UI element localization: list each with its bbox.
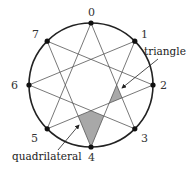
- star-edge-0-3: [91, 23, 135, 129]
- shaded-quadrilateral: [78, 111, 104, 147]
- vertex-label-4: 4: [88, 151, 95, 164]
- vertex-dot-0: [88, 20, 93, 25]
- quadrilateral-annotation: quadrilateral: [12, 150, 82, 162]
- vertex-label-5: 5: [31, 132, 38, 145]
- star-edge-7-2: [47, 41, 153, 85]
- vertex-dot-1: [132, 39, 137, 44]
- vertex-dot-5: [45, 126, 50, 131]
- star-edge-4-7: [47, 41, 91, 147]
- star-edge-1-4: [91, 41, 135, 147]
- vertex-dot-6: [26, 82, 31, 87]
- vertex-dot-2: [150, 82, 155, 87]
- quadrilateral-arrow: [58, 125, 79, 150]
- vertex-label-1: 1: [141, 28, 148, 41]
- triangle-annotation: triangle: [144, 45, 186, 57]
- vertex-label-3: 3: [141, 132, 148, 145]
- vertex-dot-3: [132, 126, 137, 131]
- vertex-label-2: 2: [160, 79, 167, 92]
- vertex-label-0: 0: [88, 6, 95, 19]
- vertex-label-6: 6: [11, 79, 18, 92]
- vertex-dot-4: [88, 144, 93, 149]
- star-edge-6-1: [29, 41, 135, 85]
- star-polygon-diagram: 0 1 2 3 4 5 6 7 triangle quadrilateral: [0, 0, 192, 170]
- vertex-label-7: 7: [32, 28, 39, 41]
- vertex-dot-7: [45, 39, 50, 44]
- star-edge-5-0: [47, 23, 91, 129]
